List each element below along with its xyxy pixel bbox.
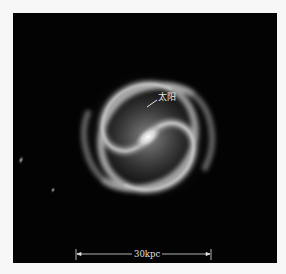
galaxy-illustration — [13, 13, 277, 263]
scale-bar-label: 30kpc — [132, 249, 162, 259]
satellite-galaxy — [49, 186, 56, 194]
sun-label: 太阳 — [158, 92, 176, 102]
galaxy-image-panel: 太阳 30kpc — [13, 13, 277, 263]
satellite-galaxy — [16, 154, 25, 165]
